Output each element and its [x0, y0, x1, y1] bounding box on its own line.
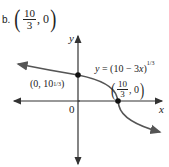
point2-fraction: 10 3	[117, 80, 128, 99]
point2-denominator: 3	[120, 90, 125, 99]
equation-label: y y = (10 − 3= (10 − 3x)1/3	[95, 60, 155, 74]
point2-close-paren: )	[140, 81, 144, 99]
point1-suffix: )	[61, 78, 64, 89]
equation-exponent: 1/3	[147, 60, 155, 66]
point1-exponent: 1/3	[53, 81, 61, 87]
origin-label: 0	[69, 103, 75, 115]
y-intercept-label: (0, 101/3)	[30, 78, 64, 89]
y-intercept-point	[75, 72, 81, 78]
x-axis-label: x	[159, 103, 164, 115]
x-intercept-label: ( 10 3 , 0 )	[110, 80, 145, 99]
x-intercept-point	[115, 98, 121, 104]
point2-open-paren: (	[111, 81, 115, 99]
point2-y: , 0	[129, 84, 139, 95]
point1-prefix: (0, 10	[30, 78, 53, 89]
y-axis-label: y	[69, 32, 74, 44]
function-curve	[18, 64, 78, 75]
